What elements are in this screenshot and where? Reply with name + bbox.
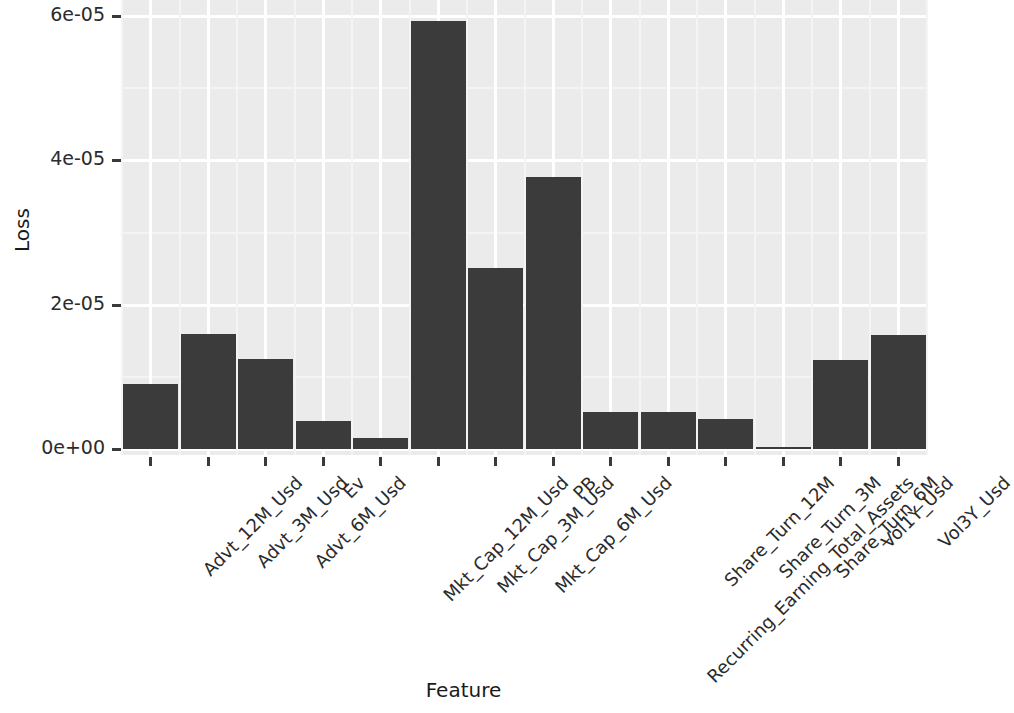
bar [296, 421, 351, 449]
bar [698, 419, 753, 449]
gridline-x-minor [351, 0, 353, 455]
y-tick-mark [112, 448, 121, 451]
y-tick-label: 4e-05 [5, 147, 105, 169]
x-tick-mark [264, 457, 267, 466]
gridline-x-major [322, 0, 325, 455]
y-axis-title: Loss [10, 200, 34, 260]
gridline-x-minor [581, 0, 583, 455]
gridline-x-major [782, 0, 785, 455]
gridline-x-minor [926, 0, 928, 455]
y-tick-label: 0e+00 [5, 436, 105, 458]
gridline-x-major [667, 0, 670, 455]
x-tick-mark [494, 457, 497, 466]
x-tick-mark [782, 457, 785, 466]
bar [123, 384, 178, 449]
bar [353, 438, 408, 449]
bar [411, 21, 466, 449]
y-tick-mark [112, 304, 121, 307]
bar [871, 335, 926, 449]
gridline-x-major [724, 0, 727, 455]
x-tick-mark [724, 457, 727, 466]
gridline-x-major [379, 0, 382, 455]
x-tick-mark [207, 457, 210, 466]
x-axis-title: Feature [0, 678, 927, 702]
y-tick-mark [112, 159, 121, 162]
x-tick-mark [437, 457, 440, 466]
y-tick-label: 6e-05 [5, 3, 105, 25]
x-tick-mark [667, 457, 670, 466]
gridline-x-minor [754, 0, 756, 455]
gridline-x-minor [639, 0, 641, 455]
x-tick-mark [839, 457, 842, 466]
bar [641, 412, 696, 449]
gridline-x-major [609, 0, 612, 455]
bar [813, 360, 868, 449]
plot-panel [122, 0, 927, 455]
bar [526, 177, 581, 449]
y-tick-label: 2e-05 [5, 292, 105, 314]
bar [583, 412, 638, 449]
x-tick-mark [609, 457, 612, 466]
gridline-x-minor [294, 0, 296, 455]
x-tick-mark [322, 457, 325, 466]
bar [181, 334, 236, 449]
y-tick-mark [112, 15, 121, 18]
x-tick-mark [379, 457, 382, 466]
bar [468, 268, 523, 449]
bar [756, 447, 811, 449]
gridline-x-minor [696, 0, 698, 455]
x-tick-label: Ev [339, 472, 369, 502]
x-tick-mark [552, 457, 555, 466]
x-tick-mark [149, 457, 152, 466]
x-tick-mark [897, 457, 900, 466]
bar [238, 359, 293, 449]
